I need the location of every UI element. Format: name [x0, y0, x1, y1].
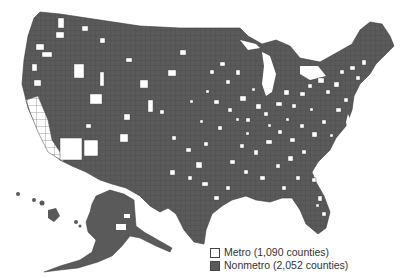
legend-item-nonmetro: Nonmetro (2,052 counties) — [210, 259, 348, 272]
legend-label-metro: Metro (1,090 counties) — [224, 246, 329, 259]
us-county-map — [0, 0, 415, 278]
legend-item-metro: Metro (1,090 counties) — [210, 246, 348, 259]
legend-label-nonmetro: Nonmetro (2,052 counties) — [224, 259, 348, 272]
metro-swatch-icon — [210, 248, 220, 258]
contiguous-us — [22, 12, 394, 244]
nonmetro-swatch-icon — [210, 261, 220, 271]
map-legend: Metro (1,090 counties) Nonmetro (2,052 c… — [210, 246, 348, 272]
hawaii-inset — [16, 192, 82, 228]
